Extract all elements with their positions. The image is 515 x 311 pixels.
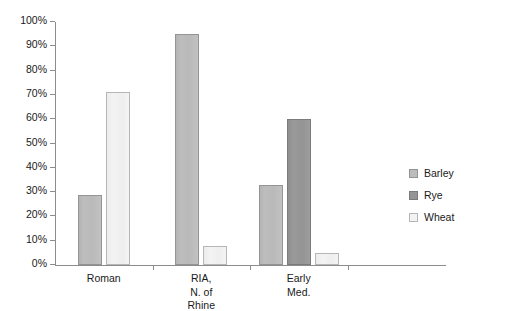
y-axis-tick-label: 0% (32, 257, 47, 270)
legend-item[interactable]: Wheat (409, 209, 454, 226)
legend-label: Barley (424, 167, 454, 180)
y-axis-tick-mark (50, 264, 55, 265)
legend-label: Wheat (424, 211, 454, 224)
y-axis-tick-mark (50, 143, 55, 144)
y-axis-tick-row: 80% (55, 70, 56, 71)
y-axis-tick-mark (50, 191, 55, 192)
bar-chart: 0%10%20%30%40%50%60%70%80%90%100% RomanR… (0, 0, 515, 311)
y-axis-tick-label: 100% (20, 14, 47, 27)
y-axis-tick-label: 90% (26, 38, 47, 51)
y-axis-tick-row: 0% (55, 264, 56, 265)
bar-barley-1 (175, 34, 199, 265)
y-axis-tick-mark (50, 240, 55, 241)
x-axis-category-label: Roman (55, 272, 153, 286)
y-axis-tick-label: 50% (26, 136, 47, 149)
bar-wheat-1 (203, 246, 227, 265)
x-axis-tick-mark (153, 265, 154, 270)
legend-swatch-rye (409, 191, 418, 200)
x-axis-tick-mark (250, 265, 251, 270)
legend-swatch-wheat (409, 213, 418, 222)
bar-barley-2 (259, 185, 283, 265)
y-axis-tick-row: 90% (55, 45, 56, 46)
bar-wheat-0 (106, 92, 130, 265)
y-axis-tick-row: 30% (55, 191, 56, 192)
bar-barley-0 (78, 195, 102, 265)
y-axis-tick-row: 100% (55, 21, 56, 22)
y-axis-tick-row: 50% (55, 143, 56, 144)
plot-area: 0%10%20%30%40%50%60%70%80%90%100% (55, 22, 445, 265)
y-axis-tick-mark (50, 118, 55, 119)
bar-rye-2 (287, 119, 311, 265)
x-axis-category-label: Early Med. (250, 272, 348, 299)
y-axis-tick-mark (50, 70, 55, 71)
y-axis-tick-mark (50, 21, 55, 22)
legend: Barley Rye Wheat (409, 165, 454, 231)
y-axis-tick-row: 60% (55, 118, 56, 119)
x-axis-category-label: RIA, N. of Rhine (153, 272, 251, 311)
y-axis-tick-row: 20% (55, 215, 56, 216)
legend-item[interactable]: Rye (409, 187, 454, 204)
y-axis-tick-label: 30% (26, 184, 47, 197)
y-axis-tick-mark (50, 45, 55, 46)
legend-item[interactable]: Barley (409, 165, 454, 182)
y-axis-tick-label: 70% (26, 87, 47, 100)
y-axis-tick-mark (50, 215, 55, 216)
y-axis-tick-label: 80% (26, 63, 47, 76)
y-axis-tick-label: 40% (26, 160, 47, 173)
y-axis-tick-mark (50, 167, 55, 168)
bar-wheat-2 (315, 253, 339, 265)
y-axis-tick-row: 70% (55, 94, 56, 95)
y-axis-tick-mark (50, 94, 55, 95)
y-axis-tick-row: 10% (55, 240, 56, 241)
x-axis-tick-mark (348, 265, 349, 270)
y-axis-tick-label: 20% (26, 208, 47, 221)
y-axis-tick-label: 60% (26, 111, 47, 124)
y-axis-tick-label: 10% (26, 233, 47, 246)
y-axis-tick-row: 40% (55, 167, 56, 168)
legend-label: Rye (424, 189, 443, 202)
legend-swatch-barley (409, 169, 418, 178)
